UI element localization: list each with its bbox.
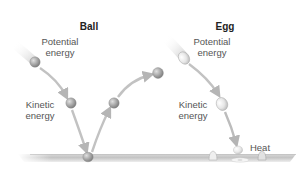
ball-kinetic-icon xyxy=(66,98,76,108)
egg-potential-line2: energy xyxy=(191,48,233,59)
egg-potential-energy-label: Potential energy xyxy=(191,37,233,58)
egg-falling-icon xyxy=(233,146,242,154)
ball-potential-energy-label: Potential energy xyxy=(39,37,81,58)
egg-kinetic-energy-label: Kinetic energy xyxy=(175,100,211,121)
ball-potential-line1: Potential xyxy=(39,37,81,48)
ground xyxy=(18,152,296,164)
ball-kinetic-line2: energy xyxy=(22,111,58,122)
egg-title: Egg xyxy=(212,21,238,32)
ball-top-icon xyxy=(153,68,164,79)
egg-kinetic-line2: energy xyxy=(175,111,211,122)
egg-kinetic-line1: Kinetic xyxy=(175,100,211,111)
heat-label: Heat xyxy=(248,143,272,154)
ball-ground-icon xyxy=(83,152,93,162)
ball-rebound-icon xyxy=(109,98,119,108)
ball-potential-line2: energy xyxy=(39,48,81,59)
egg-potential-line1: Potential xyxy=(191,37,233,48)
energy-diagram: Ball Potential energy Kinetic energy Egg… xyxy=(0,0,301,180)
ball-start-icon xyxy=(30,57,40,67)
ball-title: Ball xyxy=(76,21,102,32)
egg-kinetic-icon xyxy=(214,96,230,113)
ball-kinetic-energy-label: Kinetic energy xyxy=(22,100,58,121)
ball-kinetic-line1: Kinetic xyxy=(22,100,58,111)
